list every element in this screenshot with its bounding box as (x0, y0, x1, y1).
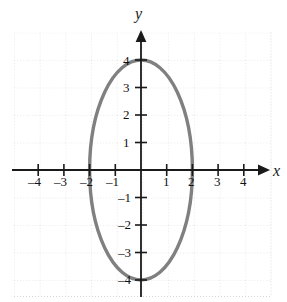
y-axis-label: y (135, 6, 142, 22)
grid (14, 33, 271, 297)
y-tick-label-4: 4 (123, 54, 130, 67)
x-tick-label-neg3: –3 (54, 175, 67, 188)
x-tick-label-1: 1 (163, 175, 170, 188)
y-tick-label-neg1: –1 (118, 191, 131, 204)
y-tick-label-neg2: –2 (118, 218, 131, 231)
y-tick-label-neg4: –4 (118, 273, 131, 286)
x-tick-label-4: 4 (240, 175, 247, 188)
x-tick-label-neg2: –2 (80, 175, 93, 188)
y-tick-label-neg3: –3 (118, 246, 131, 259)
y-tick-label-1: 1 (123, 136, 130, 149)
x-tick-label-neg1: –1 (106, 175, 119, 188)
x-tick-label-2: 2 (188, 175, 195, 188)
graph-figure: y x –4 –3 –2 –1 1 2 3 4 4 3 2 1 –1 –2 –3… (0, 0, 287, 302)
y-tick-label-3: 3 (123, 81, 130, 94)
y-tick-label-2: 2 (123, 108, 130, 121)
x-tick-label-3: 3 (214, 175, 221, 188)
x-axis-label: x (273, 163, 280, 179)
coordinate-plane (0, 0, 287, 302)
x-tick-label-neg4: –4 (28, 175, 41, 188)
